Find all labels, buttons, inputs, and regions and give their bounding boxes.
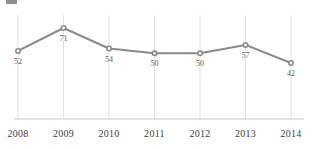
data-value-label: 50 <box>151 59 159 68</box>
line-chart: 52715450505742 2008200920102011201220132… <box>0 0 315 149</box>
data-value-label: 50 <box>196 59 204 68</box>
x-axis-tick-label: 2012 <box>189 128 210 139</box>
plot-area: 52715450505742 2008200920102011201220132… <box>0 7 315 149</box>
data-value-label: 52 <box>14 57 22 66</box>
x-axis-tick-label: 2010 <box>98 128 119 139</box>
data-point-marker <box>61 26 65 30</box>
chart-legend <box>0 0 315 7</box>
x-axis-tick-label: 2013 <box>235 128 256 139</box>
data-point-marker <box>289 61 293 65</box>
x-axis-tick-label: 2008 <box>7 128 28 139</box>
data-point-marker <box>16 49 20 53</box>
data-value-label: 71 <box>60 34 68 43</box>
x-axis-tick-label: 2009 <box>53 128 74 139</box>
data-value-label: 57 <box>242 51 250 60</box>
data-point-marker <box>198 51 202 55</box>
data-point-marker <box>152 51 156 55</box>
legend-swatch-icon <box>6 0 17 4</box>
data-point-marker <box>107 46 111 50</box>
x-axis-tick-label: 2014 <box>280 128 301 139</box>
data-value-label: 54 <box>105 55 113 64</box>
x-axis-tick-label: 2011 <box>144 128 165 139</box>
data-point-marker <box>243 43 247 47</box>
data-value-label: 42 <box>287 69 295 78</box>
